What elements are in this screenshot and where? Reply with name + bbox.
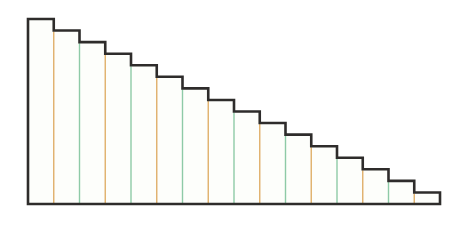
bar-9 — [234, 112, 260, 205]
bar-14 — [363, 169, 389, 204]
bar-3 — [80, 42, 106, 204]
bar-5 — [131, 65, 157, 204]
bar-6 — [157, 77, 183, 204]
bar-10 — [260, 123, 286, 204]
bar-16 — [414, 192, 440, 204]
bar-8 — [208, 100, 234, 204]
staircase-plot-area — [0, 0, 471, 251]
bar-12 — [311, 146, 337, 204]
bar-1 — [28, 19, 54, 204]
bar-7 — [183, 88, 209, 204]
bar-13 — [337, 158, 363, 204]
staircase-chart — [0, 0, 471, 251]
bar-4 — [105, 54, 131, 204]
bar-15 — [389, 181, 415, 204]
bar-11 — [286, 135, 312, 204]
bar-2 — [54, 31, 80, 204]
